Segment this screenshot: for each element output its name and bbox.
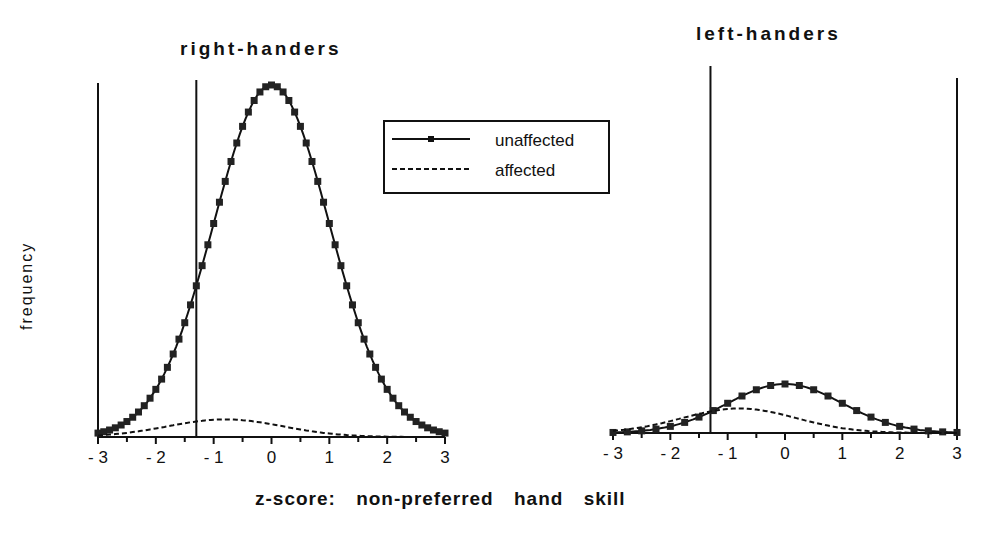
chart-canvas: - 3- 2- 10123 - 3- 2- 10123 unaffected a…	[0, 0, 984, 540]
data-point-marker	[389, 395, 396, 402]
data-point-marker	[753, 386, 760, 393]
data-point-marker	[141, 402, 148, 409]
data-point-marker	[378, 376, 385, 383]
data-point-marker	[280, 88, 287, 95]
data-point-marker	[181, 319, 188, 326]
data-point-marker	[868, 414, 875, 421]
data-point-marker	[366, 351, 373, 358]
data-point-marker	[210, 220, 217, 227]
x-tick-label: - 3	[88, 448, 108, 467]
data-point-marker	[384, 386, 391, 393]
x-tick-label: - 2	[146, 448, 166, 467]
data-point-marker	[361, 336, 368, 343]
series-unaffected	[613, 384, 957, 433]
x-tick-label: 1	[325, 448, 334, 467]
x-tick-label: 1	[838, 444, 847, 463]
data-point-marker	[285, 97, 292, 104]
legend-square-marker-icon	[428, 136, 434, 142]
data-point-marker	[896, 423, 903, 430]
data-point-marker	[326, 220, 333, 227]
data-point-marker	[839, 400, 846, 407]
data-point-marker	[372, 364, 379, 371]
data-point-marker	[170, 351, 177, 358]
data-point-marker	[782, 381, 789, 388]
data-point-marker	[216, 199, 223, 206]
x-tick-label: - 2	[660, 444, 680, 463]
data-point-marker	[152, 386, 159, 393]
data-point-marker	[349, 301, 356, 308]
data-point-marker	[147, 395, 154, 402]
legend-unaffected-label: unaffected	[495, 131, 574, 150]
data-point-marker	[395, 402, 402, 409]
data-point-marker	[796, 382, 803, 389]
x-tick-label: 2	[895, 444, 904, 463]
data-point-marker	[653, 426, 660, 433]
data-point-marker	[308, 158, 315, 165]
data-point-marker	[239, 123, 246, 130]
data-point-marker	[291, 109, 298, 116]
x-tick-label: - 1	[204, 448, 224, 467]
data-point-marker	[187, 301, 194, 308]
data-point-marker	[337, 262, 344, 269]
data-point-marker	[853, 407, 860, 414]
data-point-marker	[303, 139, 310, 146]
data-point-marker	[332, 241, 339, 248]
data-point-marker	[193, 282, 200, 289]
data-point-marker	[724, 400, 731, 407]
x-tick-label: 0	[780, 444, 789, 463]
data-point-marker	[135, 409, 142, 416]
data-point-marker	[204, 241, 211, 248]
series-affected	[613, 409, 957, 434]
data-point-marker	[233, 139, 240, 146]
data-point-marker	[245, 109, 252, 116]
legend: unaffected affected	[384, 121, 609, 193]
x-tick-label: 3	[440, 448, 449, 467]
data-point-marker	[320, 199, 327, 206]
x-tick-label: - 1	[718, 444, 738, 463]
data-point-marker	[882, 419, 889, 426]
data-point-marker	[228, 158, 235, 165]
left-handers-plot: - 3- 2- 10123	[603, 66, 962, 463]
data-point-marker	[343, 282, 350, 289]
data-point-marker	[939, 428, 946, 435]
x-tick-label: 2	[382, 448, 391, 467]
data-point-marker	[314, 178, 321, 185]
data-point-marker	[681, 419, 688, 426]
series-affected	[98, 419, 445, 437]
x-tick-label: 0	[267, 448, 276, 467]
data-point-marker	[158, 376, 165, 383]
data-point-marker	[810, 386, 817, 393]
data-point-marker	[175, 336, 182, 343]
x-tick-label: - 3	[603, 444, 623, 463]
data-point-marker	[297, 123, 304, 130]
x-tick-label: 3	[952, 444, 961, 463]
data-point-marker	[199, 262, 206, 269]
data-point-marker	[164, 364, 171, 371]
data-point-marker	[355, 319, 362, 326]
data-point-marker	[825, 393, 832, 400]
data-point-marker	[739, 393, 746, 400]
legend-affected-label: affected	[495, 161, 555, 180]
data-point-marker	[667, 423, 674, 430]
data-point-marker	[767, 382, 774, 389]
data-point-marker	[251, 97, 258, 104]
data-point-marker	[442, 430, 449, 437]
data-point-marker	[696, 414, 703, 421]
data-point-marker	[222, 178, 229, 185]
data-point-marker	[911, 426, 918, 433]
